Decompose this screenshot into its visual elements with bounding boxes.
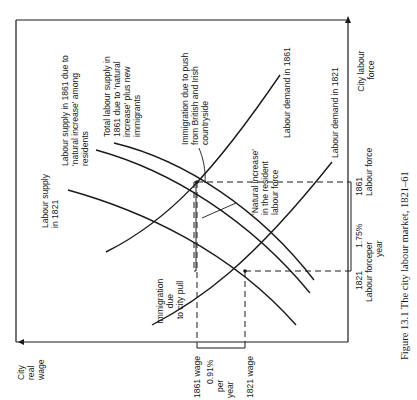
labour-market-diagram: City real wage City labour force 1861 wa… — [0, 0, 417, 400]
y-axis-label: City real wage — [16, 359, 46, 381]
natural-increase-pointer — [202, 203, 236, 218]
push-immigration-label: Immigration due to push from British and… — [180, 50, 210, 145]
pull-immigration-label: Immigration due to city pull — [155, 276, 185, 323]
demand-1861-label: Labour demand in 1861 — [282, 47, 292, 138]
supply-1861-total-label: Total labour supply in 1861 due to 'natu… — [102, 54, 142, 137]
wage-1861-label: 1861 wage — [192, 356, 202, 398]
supply-1861-natural-label: Labour supply in 1861 due to 'natural in… — [60, 53, 90, 166]
demand-1821-label: Labour demand in 1821 — [330, 67, 340, 158]
wage-growth-label: 0.91% per year — [205, 357, 235, 398]
figure-caption: Figure 13.1 The city labour market, 1821… — [399, 171, 410, 360]
wage-growth-bracket — [197, 342, 245, 348]
labour-force-1861-label: 1861 Labour force — [354, 148, 374, 196]
y-axis-arrow-icon — [18, 339, 24, 345]
equilibrium-1821-point — [243, 269, 247, 273]
equilibrium-1861-point — [195, 180, 199, 184]
labour-force-1821-label: 1821 Labour force — [354, 254, 374, 302]
wage-1821-label: 1821 wage — [245, 356, 255, 398]
x-axis-label: City labour force — [356, 48, 376, 91]
natural-increase-label: 'Natural increase' in the resident labou… — [250, 147, 280, 215]
labour-growth-label: 1.75% per year — [354, 221, 384, 257]
supply-1821-label: Labour supply in 1821 — [40, 172, 60, 228]
